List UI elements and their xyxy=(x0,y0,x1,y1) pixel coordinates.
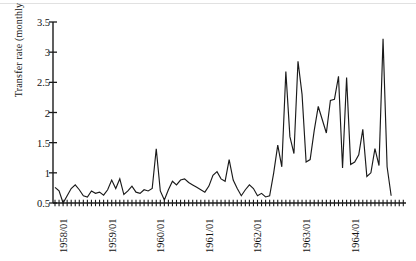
x-tick-label-1961-01: 1961/01 xyxy=(205,219,216,253)
x-tick-label-1959-01: 1959/01 xyxy=(108,219,119,253)
x-tick-label-1963-01: 1963/01 xyxy=(302,219,313,253)
x-tick-label-1962-01: 1962/01 xyxy=(253,219,264,253)
x-tick-label-1964-01: 1964/01 xyxy=(351,219,362,253)
x-minor-ticks xyxy=(55,200,403,206)
axis-lines xyxy=(53,22,406,203)
x-tick-label-1958-01: 1958/01 xyxy=(59,219,70,253)
chart-figure: Transfer rate (monthly values) 3.5 3 2.5… xyxy=(0,0,416,261)
data-series-line xyxy=(55,39,391,203)
x-tick-label-1960-01: 1960/01 xyxy=(156,219,167,253)
